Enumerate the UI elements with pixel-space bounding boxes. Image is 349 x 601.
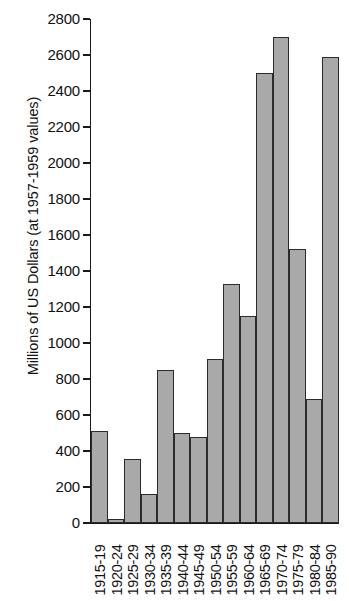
x-axis-tick-label-text: 1950-54: [207, 530, 224, 596]
x-axis-tick-label: 1955-59: [223, 524, 240, 601]
x-axis-tick-label-text: 1975-79: [290, 530, 307, 596]
y-axis-tick-label: 0: [72, 514, 80, 532]
bar: [207, 359, 224, 523]
y-axis-tick-label: 2200: [47, 118, 80, 136]
x-axis-tick-label: 1920-24: [108, 524, 125, 601]
y-axis-tick-label: 400: [56, 442, 80, 460]
y-axis-tick-label: 200: [56, 478, 80, 496]
x-axis-tick-label-text: 1940-44: [174, 530, 191, 596]
x-axis-tick-label-text: 1945-49: [191, 530, 208, 596]
x-axis-tick-label-text: 1980-84: [306, 530, 323, 596]
x-axis-tick-label-text: 1925-29: [125, 530, 142, 596]
y-axis-tick-label: 2000: [47, 154, 80, 172]
y-axis-tick-label: 1200: [47, 298, 80, 316]
y-axis-tick-label: 2800: [47, 10, 80, 28]
x-axis-tick-label: 1940-44: [174, 524, 191, 601]
y-axis-tick-label: 2600: [47, 46, 80, 64]
bar: [157, 370, 174, 523]
x-axis-tick-label: 1975-79: [289, 524, 306, 601]
x-axis-tick-label: 1965-69: [256, 524, 273, 601]
y-axis-tick-label: 1400: [47, 262, 80, 280]
x-axis-tick-label: 1980-84: [306, 524, 323, 601]
y-axis-tick-mark: [83, 18, 90, 20]
x-axis-tick-label: 1950-54: [207, 524, 224, 601]
bar: [91, 431, 108, 523]
y-axis-tick-mark: [83, 342, 90, 344]
bar: [223, 284, 240, 523]
x-axis-tick-label: 1930-34: [141, 524, 158, 601]
y-axis-tick-labels: 0200400600800100012001400160018002000220…: [0, 0, 91, 601]
bar: [306, 399, 323, 523]
bar: [141, 494, 158, 523]
y-axis-tick-mark: [83, 378, 90, 380]
y-axis-tick-mark: [83, 162, 90, 164]
y-axis-tick-mark: [83, 450, 90, 452]
y-axis-tick-mark: [83, 54, 90, 56]
plot-area: [91, 19, 339, 523]
x-axis-tick-label: 1985-90: [322, 524, 339, 601]
y-axis-tick-mark: [83, 414, 90, 416]
x-axis-tick-label: 1925-29: [124, 524, 141, 601]
x-axis-tick-label-text: 1920-24: [108, 530, 125, 596]
y-axis-tick-label: 1600: [47, 226, 80, 244]
y-axis-tick-mark: [83, 306, 90, 308]
x-axis-tick-label-text: 1970-74: [273, 530, 290, 596]
x-axis-tick-label-text: 1935-39: [158, 530, 175, 596]
x-axis-tick-label: 1960-64: [240, 524, 257, 601]
x-axis-tick-label: 1935-39: [157, 524, 174, 601]
y-axis-tick-mark: [83, 270, 90, 272]
y-axis-tick-mark: [83, 90, 90, 92]
x-axis-tick-label: 1915-19: [91, 524, 108, 601]
x-axis-tick-label-text: 1965-69: [257, 530, 274, 596]
bar: [108, 519, 125, 523]
y-axis-tick-mark: [83, 234, 90, 236]
bar: [289, 249, 306, 523]
bar: [190, 437, 207, 523]
bar: [124, 459, 141, 523]
y-axis-tick-mark: [83, 522, 90, 524]
y-axis-tick-label: 1000: [47, 334, 80, 352]
x-axis-tick-label: 1970-74: [273, 524, 290, 601]
bar: [240, 316, 257, 523]
bar: [256, 73, 273, 523]
x-axis-tick-label-text: 1930-34: [141, 530, 158, 596]
y-axis-tick-label: 2400: [47, 82, 80, 100]
x-axis-tick-label: 1945-49: [190, 524, 207, 601]
y-axis-tick-mark: [83, 126, 90, 128]
y-axis-tick-mark: [83, 486, 90, 488]
y-axis-tick-label: 1800: [47, 190, 80, 208]
x-axis-tick-label-text: 1955-59: [224, 530, 241, 596]
x-axis-tick-label-text: 1960-64: [240, 530, 257, 596]
y-axis-tick-mark: [83, 198, 90, 200]
bar-chart: Millions of US Dollars (at 1957-1959 val…: [0, 0, 349, 601]
y-axis-tick-label: 600: [56, 406, 80, 424]
x-axis-tick-labels: 1915-191920-241925-291930-341935-391940-…: [91, 524, 339, 601]
bar: [174, 433, 191, 523]
x-axis-tick-label-text: 1915-19: [92, 530, 109, 596]
x-axis-tick-label-text: 1985-90: [323, 530, 340, 596]
bar: [273, 37, 290, 523]
bar: [322, 57, 339, 523]
y-axis-tick-label: 800: [56, 370, 80, 388]
